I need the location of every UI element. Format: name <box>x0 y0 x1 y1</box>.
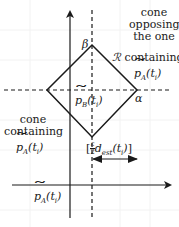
axis-pA-label: pA(ti) <box>34 191 61 207</box>
pB-center-label: pB(ti) <box>75 95 102 111</box>
beta-vertex-label: β <box>82 39 88 51</box>
alpha-vertex-label: α <box>135 93 142 105</box>
right-cone-label: cone opposing the one <box>129 7 179 43</box>
right-cone-pA-label: pA(ti) <box>134 68 161 84</box>
distance-label: [ε2dest(ti)] <box>86 141 132 159</box>
diagram-canvas: cone opposing the one ℛ containing pA(ti… <box>0 0 179 227</box>
region-symbol: ℛ <box>112 51 121 64</box>
right-cone-line3: the one <box>129 31 179 43</box>
left-cone-pA-label: pA(ti) <box>16 142 43 158</box>
